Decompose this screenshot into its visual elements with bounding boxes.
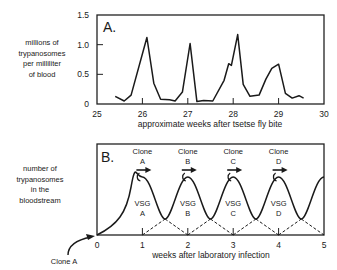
trypanosome-icon [183, 173, 186, 181]
x-tick-label: 1 [140, 240, 145, 250]
panel-b-clone-labels: CloneACloneBCloneCCloneD [133, 147, 289, 181]
x-tick-label: 3 [231, 240, 236, 250]
panel-a-y-ticks: 00.51.01.5 [77, 10, 103, 109]
x-tick-label: 28 [228, 109, 238, 119]
vsg-label: VSG [271, 199, 287, 208]
vsg-letter: C [230, 209, 236, 218]
x-tick-label: 30 [319, 109, 329, 119]
y-label-line: of blood [29, 70, 56, 79]
y-tick-label: 0 [84, 99, 89, 109]
x-tick-label: 29 [274, 109, 284, 119]
trypanosome-icon [228, 173, 231, 181]
arrow-right-icon [145, 167, 151, 173]
panel-b: B. 012345 number oftrypanosomesin theblo… [16, 144, 326, 266]
clone-letter: C [230, 157, 236, 166]
y-label-line: trypanosomes [16, 175, 63, 184]
panel-a-frame [97, 15, 324, 104]
panel-b-total-curve [97, 172, 324, 235]
y-label-line: in the [31, 185, 49, 194]
panel-b-y-label: number oftrypanosomesin thebloodstream [16, 164, 63, 205]
y-tick-label: 0.5 [77, 69, 89, 79]
vsg-letter: B [185, 209, 190, 218]
clone-letter: D [276, 157, 282, 166]
x-tick-label: 5 [322, 240, 327, 250]
panel-a-y-label: millions oftrypanosomesper milliliterof … [18, 38, 65, 79]
x-tick-label: 4 [276, 240, 281, 250]
x-tick-label: 26 [138, 109, 148, 119]
vsg-letter: D [276, 209, 282, 218]
arrow-right-icon [236, 167, 242, 173]
clone-a-arrow-icon [68, 237, 91, 255]
trypanosome-icon [273, 173, 276, 181]
panel-b-label: B. [101, 149, 114, 165]
clone-a-annotation: Clone A [51, 257, 77, 266]
y-label-line: trypanosomes [18, 49, 65, 58]
x-tick-label: 27 [183, 109, 193, 119]
y-label-line: millions of [25, 38, 59, 47]
clone-label: Clone [133, 147, 153, 156]
panel-a-x-label: approximate weeks after tsetse fly bite [138, 119, 283, 129]
x-tick-label: 25 [92, 109, 102, 119]
y-tick-label: 1.5 [77, 10, 89, 20]
vsg-label: VSG [225, 199, 241, 208]
panel-b-vsg-labels: VSGAVSGBVSGCVSGD [134, 199, 286, 218]
clone-label: Clone [223, 147, 243, 156]
vsg-label: VSG [134, 199, 150, 208]
vsg-label: VSG [180, 199, 196, 208]
arrow-right-icon [282, 167, 288, 173]
clone-label: Clone [269, 147, 289, 156]
figure: A. 00.51.01.5 252627282930 millions oftr… [0, 0, 337, 270]
panel-a: A. 00.51.01.5 252627282930 millions oftr… [18, 10, 329, 129]
clone-letter: A [140, 157, 145, 166]
panel-b-x-ticks: 012345 [95, 228, 327, 250]
x-tick-label: 0 [95, 240, 100, 250]
y-tick-label: 1.0 [77, 40, 89, 50]
vsg-letter: A [140, 209, 145, 218]
clone-letter: B [185, 157, 190, 166]
panel-a-series-line [115, 35, 303, 102]
arrow-right-icon [191, 167, 197, 173]
x-tick-label: 2 [185, 240, 190, 250]
y-label-line: bloodstream [19, 196, 60, 205]
clone-label: Clone [178, 147, 198, 156]
panel-a-label: A. [103, 19, 116, 35]
y-label-line: per milliliter [23, 59, 61, 68]
panel-b-x-label: weeks after laboratory infection [151, 250, 270, 260]
y-label-line: number of [23, 164, 58, 173]
